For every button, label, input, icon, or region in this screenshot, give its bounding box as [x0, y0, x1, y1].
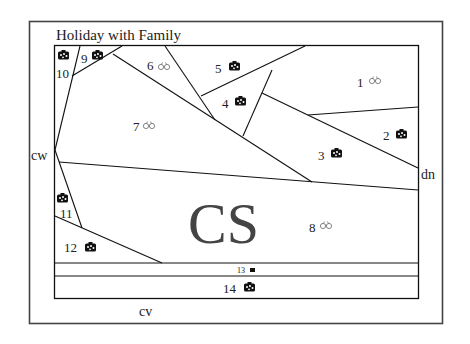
region-label: 3 [318, 148, 325, 163]
bag-icon [235, 96, 246, 106]
region-label: 11 [60, 206, 73, 221]
wall [308, 107, 418, 115]
region-label: 8 [309, 220, 316, 235]
region-label: 4 [222, 96, 229, 111]
bag-icon [331, 148, 342, 158]
small-bag-icon [250, 268, 255, 272]
region-label: 9 [81, 51, 88, 66]
floor-plan: Holiday with Family cw dn cv CS 1 2 3 4 … [0, 0, 470, 344]
glasses-icon [369, 77, 380, 84]
label-left: cw [31, 148, 48, 163]
glasses-icon [158, 63, 169, 70]
region-label: 14 [223, 281, 237, 296]
bag-icon [92, 50, 103, 60]
diagram-title: Holiday with Family [56, 27, 181, 43]
wall [55, 46, 80, 150]
region-label: 12 [64, 240, 77, 255]
bag-icon [58, 50, 69, 60]
region-label: 5 [215, 61, 222, 76]
wall [113, 54, 312, 182]
region-label: 7 [133, 119, 140, 134]
wall [165, 46, 215, 120]
bag-icon [396, 129, 407, 139]
region-label: 13 [237, 266, 245, 275]
region-label: 2 [383, 128, 390, 143]
label-right: dn [421, 167, 435, 182]
bag-icon [229, 61, 240, 71]
region-label: 6 [147, 58, 154, 73]
glasses-icon [320, 222, 331, 229]
region-label: 1 [357, 75, 364, 90]
bag-icon [57, 193, 68, 203]
inner-frame [55, 46, 419, 299]
center-label: CS [188, 191, 259, 256]
bag-icon [244, 282, 255, 292]
region-label: 10 [56, 66, 69, 81]
glasses-icon [143, 122, 154, 129]
label-bottom: cv [139, 304, 152, 319]
bag-icon [85, 242, 96, 252]
wall [59, 162, 418, 190]
wall [243, 70, 272, 136]
